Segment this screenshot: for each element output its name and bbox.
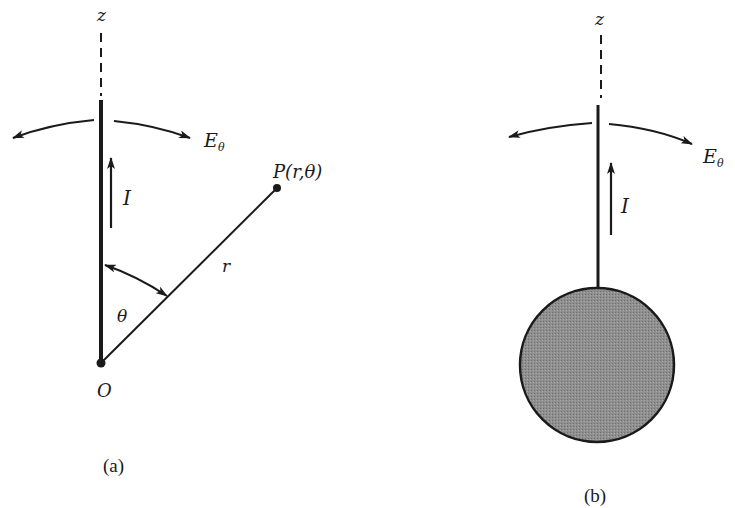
caption-b: (b)	[584, 485, 606, 507]
field-arrow-right	[609, 124, 692, 144]
z-axis-label: z	[594, 9, 605, 29]
panel-a: z Eθ I P(r,θ) r θ O (a)	[13, 5, 322, 477]
radius-line	[101, 188, 277, 363]
point-p-dot	[273, 184, 281, 192]
radius-label: r	[222, 256, 231, 276]
current-label: I	[122, 186, 132, 210]
z-axis-label: z	[96, 5, 107, 25]
field-label-e-theta: Eθ	[203, 129, 225, 154]
field-arrow-left	[13, 120, 94, 138]
antenna-diagram: z Eθ I P(r,θ) r θ O (a) z Eθ I (b)	[0, 0, 735, 508]
point-label: P(r,θ)	[272, 161, 322, 182]
field-arrow-left	[509, 123, 592, 137]
origin-label: O	[97, 380, 112, 401]
field-label-e-theta: Eθ	[702, 145, 724, 170]
current-label: I	[620, 194, 630, 218]
caption-a: (a)	[103, 455, 124, 477]
angle-arrow	[105, 265, 167, 296]
angle-label: θ	[117, 306, 127, 326]
ground-sphere	[520, 288, 674, 442]
panel-b: z Eθ I (b)	[509, 9, 724, 507]
field-arrow-right	[114, 121, 190, 138]
